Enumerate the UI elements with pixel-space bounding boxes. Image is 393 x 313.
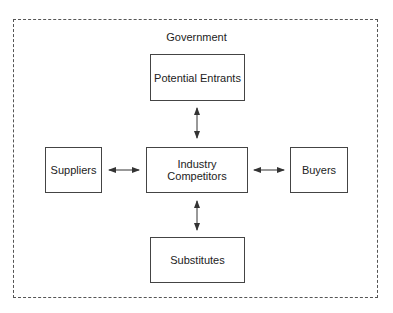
connector-arrows xyxy=(0,0,393,313)
